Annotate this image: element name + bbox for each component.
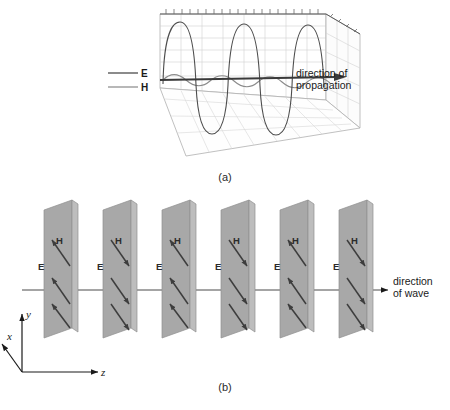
wave-line-2: of wave	[393, 287, 429, 299]
wavefront-plane-6: H E	[333, 200, 373, 338]
wavefront-plane-4: H E	[215, 200, 255, 338]
propagation-line-2: propagation	[296, 79, 351, 91]
propagation-direction-label: direction of propagation	[296, 68, 351, 91]
plane-4-label-h: H	[233, 235, 240, 246]
caption-panel-b: (b)	[205, 381, 245, 393]
panel-b-diagram: H E H E H E	[0, 192, 450, 407]
panel-a-diagram	[0, 0, 450, 170]
wavefront-plane-3: H E	[156, 200, 196, 338]
plane-5-label-e: E	[274, 261, 280, 272]
legend-label-e: E	[141, 68, 148, 80]
plane-5-label-h: H	[292, 235, 299, 246]
x-axis-line	[2, 344, 22, 372]
caption-panel-a: (a)	[205, 171, 245, 183]
legend-label-h: H	[141, 82, 148, 94]
plane-2-label-h: H	[115, 235, 122, 246]
plane-1-label-h: H	[56, 235, 63, 246]
plane-2-label-e: E	[97, 261, 103, 272]
wavefront-plane-5: H E	[274, 200, 314, 338]
plane-3-label-h: H	[174, 235, 181, 246]
plane-1-label-e: E	[38, 261, 44, 272]
legend-swatches	[108, 73, 138, 87]
wave-direction-label: direction of wave	[393, 276, 433, 299]
plane-3-label-e: E	[156, 261, 162, 272]
wave-line-1: direction	[393, 275, 433, 287]
figure-canvas: E H direction of propagation (a) H E	[0, 0, 450, 410]
wavefront-plane-2: H E	[97, 200, 137, 338]
plane-6-label-e: E	[333, 261, 339, 272]
x-axis-label: x	[6, 330, 12, 342]
z-axis-label: z	[100, 366, 106, 378]
plane-4-label-e: E	[215, 261, 221, 272]
y-axis-label: y	[25, 308, 31, 320]
plane-6-label-h: H	[351, 235, 358, 246]
wavefront-plane-1: H E	[38, 200, 78, 338]
propagation-line-1: direction of	[296, 67, 347, 79]
